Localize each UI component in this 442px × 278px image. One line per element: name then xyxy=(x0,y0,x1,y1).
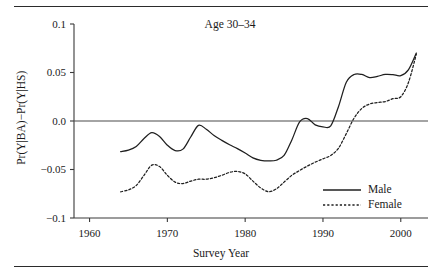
x-tick-marks xyxy=(90,218,401,222)
x-tick-label: 1970 xyxy=(139,228,195,239)
y-tick-marks xyxy=(70,24,74,218)
y-tick-label: 0.0 xyxy=(20,116,66,127)
y-tick-label: −0.1 xyxy=(20,213,66,224)
series-line-female xyxy=(121,54,417,192)
chart-title: Age 30–34 xyxy=(150,19,310,31)
series-line-male xyxy=(121,53,417,161)
y-tick-label: 0.05 xyxy=(20,67,66,78)
legend-swatch-dotted-line-icon xyxy=(322,200,362,210)
x-tick-label: 1980 xyxy=(217,228,273,239)
legend-swatch-solid-line-icon xyxy=(322,185,362,195)
x-axis-label: Survey Year xyxy=(131,248,311,260)
figure-container: Age 30–34 Pr(Y|BA)−Pr(Y|HS) Survey Year … xyxy=(0,0,442,278)
legend-item-male: Male xyxy=(322,182,402,197)
x-tick-label: 1990 xyxy=(295,228,351,239)
legend-item-female: Female xyxy=(322,197,402,212)
legend-label-female: Female xyxy=(368,199,402,211)
x-tick-label: 1960 xyxy=(62,228,118,239)
legend-label-male: Male xyxy=(368,184,392,196)
x-tick-label: 2000 xyxy=(373,228,429,239)
y-tick-label: 0.1 xyxy=(20,19,66,30)
chart-legend: Male Female xyxy=(322,182,402,212)
y-tick-label: −0.05 xyxy=(20,164,66,175)
